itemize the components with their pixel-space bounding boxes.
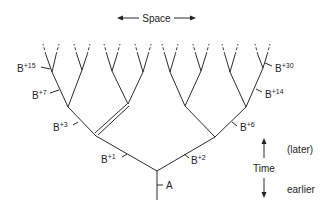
label-ticks [41, 63, 272, 185]
label-b15: B+15 [17, 62, 36, 74]
tree-level-4 [43, 44, 270, 72]
arrow-left-icon [117, 16, 123, 21]
arrow-up-icon [262, 138, 267, 144]
arrow-right-icon [190, 16, 196, 21]
label-b30: B+30 [275, 62, 294, 74]
label-a: A [166, 180, 173, 191]
space-label: Space [142, 13, 171, 24]
label-b6: B+6 [240, 121, 255, 133]
label-b2: B+2 [191, 154, 206, 166]
time-label: Time [253, 163, 275, 174]
tree-trunk [96, 136, 215, 200]
branching-tree-diagram: Space [0, 0, 332, 214]
tree-level-3 [52, 68, 263, 107]
time-axis: Time (later) earlier [253, 138, 315, 198]
space-axis: Space [117, 13, 196, 24]
tree-level-2 [68, 104, 246, 137]
label-b7: B+7 [32, 89, 47, 101]
label-b1: B+1 [101, 153, 116, 165]
later-label: (later) [287, 144, 313, 155]
arrow-down-icon [262, 192, 267, 198]
label-b14: B+14 [265, 88, 284, 100]
earlier-label: earlier [287, 184, 315, 195]
label-b3: B+3 [53, 121, 68, 133]
